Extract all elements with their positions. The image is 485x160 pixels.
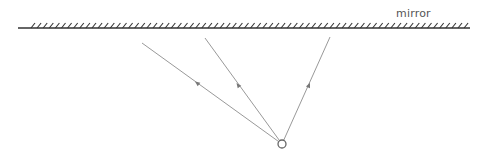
mirror-hatch-mark [68, 23, 72, 28]
mirror-hatch-mark [196, 23, 200, 28]
mirror-hatch-mark [129, 23, 133, 28]
point-source-circle [278, 140, 286, 148]
mirror-hatch-mark [98, 23, 102, 28]
mirror-hatch-mark [318, 23, 322, 28]
mirror-hatch-mark [373, 23, 377, 28]
mirror-hatch-mark [251, 23, 255, 28]
mirror-hatch-mark [287, 23, 291, 28]
mirror-hatch-mark [74, 23, 78, 28]
mirror-hatch-mark [135, 23, 139, 28]
mirror-hatch-mark [403, 23, 407, 28]
mirror-hatch-mark [464, 23, 468, 28]
mirror-hatch-mark [43, 23, 47, 28]
mirror-hatch-mark [415, 23, 419, 28]
mirror-hatch-mark [348, 23, 352, 28]
mirror-hatch-mark [177, 23, 181, 28]
mirror-hatch-mark [37, 23, 41, 28]
mirror-hatch-mark [275, 23, 279, 28]
mirror-hatch-mark [62, 23, 66, 28]
mirror-hatch-mark [147, 23, 151, 28]
mirror-hatch-mark [379, 23, 383, 28]
mirror-hatch-mark [342, 23, 346, 28]
mirror-hatch-mark [49, 23, 53, 28]
ray-left-line [142, 43, 282, 144]
mirror-hatch-mark [360, 23, 364, 28]
mirror-ray-diagram [0, 0, 485, 160]
mirror-hatch-mark [232, 23, 236, 28]
mirror [18, 23, 470, 28]
arrowhead-icon [306, 83, 310, 88]
mirror-hatch-mark [159, 23, 163, 28]
mirror-hatch-mark [452, 23, 456, 28]
light-rays [142, 37, 330, 144]
mirror-label: mirror [396, 7, 431, 20]
mirror-hatch-mark [330, 23, 334, 28]
mirror-hatch-mark [110, 23, 114, 28]
mirror-hatch-mark [202, 23, 206, 28]
mirror-hatch-mark [434, 23, 438, 28]
mirror-hatch-mark [354, 23, 358, 28]
mirror-hatch-mark [385, 23, 389, 28]
mirror-hatch-mark [190, 23, 194, 28]
mirror-hatch-mark [446, 23, 450, 28]
mirror-hatch-mark [208, 23, 212, 28]
mirror-hatch-mark [440, 23, 444, 28]
mirror-hatch-mark [226, 23, 230, 28]
mirror-hatch-mark [141, 23, 145, 28]
mirror-hatch-mark [299, 23, 303, 28]
mirror-hatch-mark [312, 23, 316, 28]
mirror-hatch-mark [428, 23, 432, 28]
mirror-hatch-mark [269, 23, 273, 28]
mirror-hatch-mark [391, 23, 395, 28]
mirror-hatch-mark [306, 23, 310, 28]
mirror-hatch-mark [367, 23, 371, 28]
mirror-hatch-mark [324, 23, 328, 28]
mirror-hatch-mark [397, 23, 401, 28]
mirror-hatch-mark [336, 23, 340, 28]
mirror-hatch-mark [245, 23, 249, 28]
mirror-hatch-mark [214, 23, 218, 28]
ray-right-line [282, 37, 330, 144]
point-source [278, 140, 286, 148]
mirror-hatch-mark [238, 23, 242, 28]
mirror-hatch-mark [153, 23, 157, 28]
mirror-hatch-mark [458, 23, 462, 28]
mirror-hatch-mark [184, 23, 188, 28]
mirror-hatch-mark [123, 23, 127, 28]
mirror-hatch-mark [409, 23, 413, 28]
mirror-hatch-mark [31, 23, 35, 28]
ray-middle-line [205, 38, 282, 144]
mirror-hatch-mark [293, 23, 297, 28]
ray-left [142, 43, 282, 144]
ray-middle [205, 38, 282, 144]
mirror-hatch-mark [116, 23, 120, 28]
mirror-hatch-mark [421, 23, 425, 28]
mirror-hatch-mark [86, 23, 90, 28]
mirror-hatch-mark [171, 23, 175, 28]
ray-right [282, 37, 330, 144]
mirror-hatch-mark [220, 23, 224, 28]
mirror-hatch-mark [257, 23, 261, 28]
mirror-hatch-mark [281, 23, 285, 28]
mirror-hatch-mark [263, 23, 267, 28]
mirror-hatch-mark [104, 23, 108, 28]
mirror-hatch-mark [92, 23, 96, 28]
mirror-hatch-mark [55, 23, 59, 28]
mirror-hatch-mark [165, 23, 169, 28]
mirror-hatch-mark [80, 23, 84, 28]
